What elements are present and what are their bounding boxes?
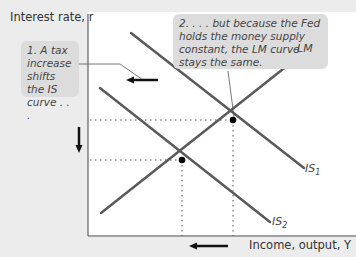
is2-label: IS2 (272, 215, 287, 230)
is2-label-base: IS (272, 215, 282, 228)
y-axis-label: Interest rate, r (10, 10, 93, 24)
lm-label: LM (297, 42, 313, 55)
is1-label-sub: 1 (315, 168, 320, 177)
down-arrow-icon (76, 127, 83, 153)
income-left-arrow-icon (189, 243, 228, 250)
equilibrium-point-initial (230, 117, 237, 124)
equilibrium-point-new (179, 157, 186, 164)
is1-label: IS1 (305, 162, 320, 177)
is2-label-sub: 2 (282, 221, 287, 230)
annotation-tax-increase: 1. A tax increase shifts the IS curve . … (21, 41, 79, 97)
is2-curve (100, 88, 270, 222)
left-shift-arrow-icon (126, 77, 158, 84)
x-axis-label: Income, output, Y (249, 238, 351, 252)
is1-label-base: IS (305, 162, 315, 175)
